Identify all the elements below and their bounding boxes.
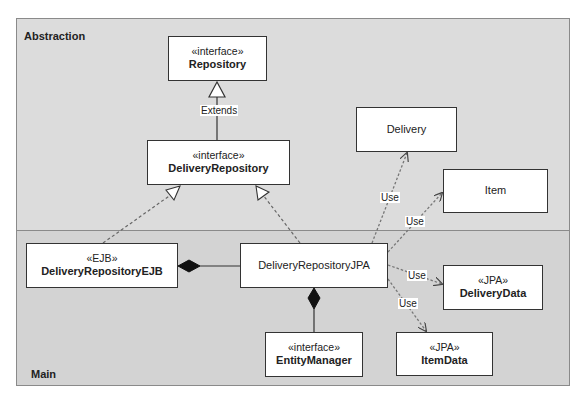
- class-delivery-repository-jpa[interactable]: DeliveryRepositoryJPA: [240, 243, 388, 288]
- class-name: Repository: [189, 58, 246, 72]
- class-delivery-repository-ejb[interactable]: «EJB» DeliveryRepositoryEJB: [26, 243, 178, 288]
- class-delivery-data[interactable]: «JPA» DeliveryData: [443, 265, 543, 310]
- class-name: Delivery: [387, 123, 427, 137]
- class-item-data[interactable]: «JPA» ItemData: [396, 332, 493, 376]
- use-deliverydata-label: Use: [407, 270, 427, 281]
- uml-class-diagram: Abstraction Main: [0, 0, 587, 403]
- stereotype-label: «EJB»: [87, 252, 118, 265]
- package-label-main: Main: [31, 368, 56, 380]
- class-name: ItemData: [421, 354, 467, 368]
- class-name: DeliveryRepositoryJPA: [258, 259, 370, 273]
- use-item-label: Use: [405, 216, 425, 227]
- extends-label: Extends: [200, 105, 238, 116]
- class-name: EntityManager: [276, 354, 352, 368]
- class-entity-manager[interactable]: «interface» EntityManager: [265, 332, 363, 377]
- use-delivery-label: Use: [380, 192, 400, 203]
- stereotype-label: «interface»: [193, 149, 245, 162]
- stereotype-label: «interface»: [288, 341, 340, 354]
- stereotype-label: «JPA»: [429, 341, 459, 354]
- class-delivery-repository[interactable]: «interface» DeliveryRepository: [147, 140, 290, 185]
- package-label-abstraction: Abstraction: [24, 30, 85, 42]
- stereotype-label: «interface»: [192, 45, 244, 58]
- stereotype-label: «JPA»: [478, 274, 508, 287]
- class-name: DeliveryData: [460, 287, 527, 301]
- class-repository[interactable]: «interface» Repository: [168, 36, 267, 81]
- class-delivery[interactable]: Delivery: [356, 107, 457, 152]
- class-item[interactable]: Item: [443, 169, 548, 213]
- class-name: DeliveryRepositoryEJB: [41, 265, 163, 279]
- class-name: DeliveryRepository: [168, 162, 268, 176]
- use-itemdata-label: Use: [398, 298, 418, 309]
- class-name: Item: [485, 184, 506, 198]
